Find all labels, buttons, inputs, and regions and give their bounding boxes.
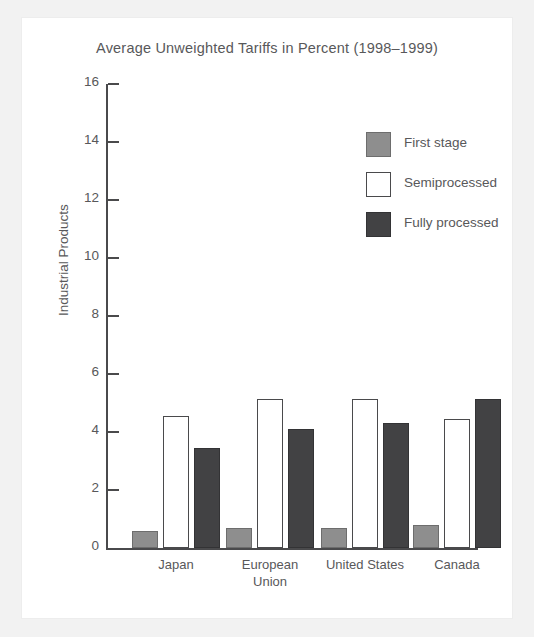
legend-swatch bbox=[366, 212, 391, 237]
bar[interactable] bbox=[475, 399, 501, 548]
y-axis-tick: 16 bbox=[108, 83, 119, 85]
legend-swatch bbox=[366, 172, 391, 197]
y-axis-title: Industrial Products bbox=[56, 204, 71, 316]
bar[interactable] bbox=[163, 416, 189, 548]
y-axis-tick-label: 12 bbox=[84, 190, 99, 206]
bar-group bbox=[226, 84, 314, 548]
legend-swatch bbox=[366, 132, 391, 157]
y-axis-tick: 4 bbox=[108, 431, 119, 433]
y-axis-tick-label: 2 bbox=[91, 480, 99, 496]
y-axis-tick: 2 bbox=[108, 489, 119, 491]
bar[interactable] bbox=[226, 528, 252, 548]
y-axis-tick: 14 bbox=[108, 141, 119, 143]
bar-group bbox=[132, 84, 220, 548]
bar-group bbox=[321, 84, 409, 548]
bar[interactable] bbox=[383, 423, 409, 548]
chart-title: Average Unweighted Tariffs in Percent (1… bbox=[22, 40, 512, 56]
x-axis-label-line: Union bbox=[204, 573, 336, 590]
y-axis-tick-label: 16 bbox=[84, 74, 99, 90]
plot-area: 0246810121416 JapanEuropeanUnionUnited S… bbox=[106, 84, 478, 548]
bar[interactable] bbox=[444, 419, 470, 548]
y-axis-tick-label: 4 bbox=[91, 422, 99, 438]
bar[interactable] bbox=[194, 448, 220, 548]
y-axis-tick-label: 0 bbox=[91, 538, 99, 554]
y-axis-tick-label: 10 bbox=[84, 248, 99, 264]
legend-label: Semiprocessed bbox=[404, 175, 497, 190]
bar[interactable] bbox=[352, 399, 378, 548]
legend-label: First stage bbox=[404, 135, 467, 150]
legend-label: Fully processed bbox=[404, 215, 499, 230]
y-axis-tick-label: 8 bbox=[91, 306, 99, 322]
figure-container: Average Unweighted Tariffs in Percent (1… bbox=[0, 0, 534, 637]
bar-group bbox=[413, 84, 501, 548]
y-axis-tick: 6 bbox=[108, 373, 119, 375]
bar[interactable] bbox=[132, 531, 158, 548]
bar[interactable] bbox=[288, 429, 314, 548]
bar[interactable] bbox=[257, 399, 283, 548]
bar[interactable] bbox=[413, 525, 439, 548]
y-axis-tick: 12 bbox=[108, 199, 119, 201]
y-axis-tick-label: 14 bbox=[84, 132, 99, 148]
bar[interactable] bbox=[321, 528, 347, 548]
y-axis-tick: 8 bbox=[108, 315, 119, 317]
x-axis-label: Canada bbox=[391, 556, 523, 573]
y-axis-tick-label: 6 bbox=[91, 364, 99, 380]
y-axis-tick: 10 bbox=[108, 257, 119, 259]
chart-plate: Average Unweighted Tariffs in Percent (1… bbox=[22, 18, 512, 618]
x-axis-line bbox=[106, 548, 478, 550]
x-axis-label-line: Canada bbox=[391, 556, 523, 573]
